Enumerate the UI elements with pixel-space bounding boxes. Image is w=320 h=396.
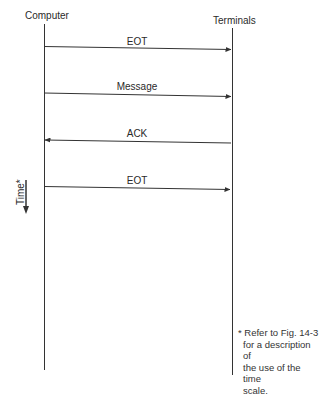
arrow-message bbox=[44, 93, 231, 97]
footnote-line-2: for a description of bbox=[238, 339, 320, 362]
footnote-line-3: the use of the time bbox=[238, 362, 320, 385]
time-axis-label: Time* bbox=[15, 179, 26, 205]
arrow-eot-2 bbox=[44, 187, 230, 190]
message-label-eot-2: EOT bbox=[77, 175, 197, 186]
footnote-line-1: * Refer to Fig. 14-3 bbox=[238, 327, 320, 339]
footnote-line-4: scale. bbox=[238, 385, 320, 396]
message-label-message: Message bbox=[77, 81, 197, 92]
message-label-ack: ACK bbox=[77, 128, 197, 139]
arrow-ack bbox=[45, 140, 231, 143]
message-label-eot-1: EOT bbox=[77, 36, 197, 47]
footnote: * Refer to Fig. 14-3 for a description o… bbox=[238, 327, 320, 396]
